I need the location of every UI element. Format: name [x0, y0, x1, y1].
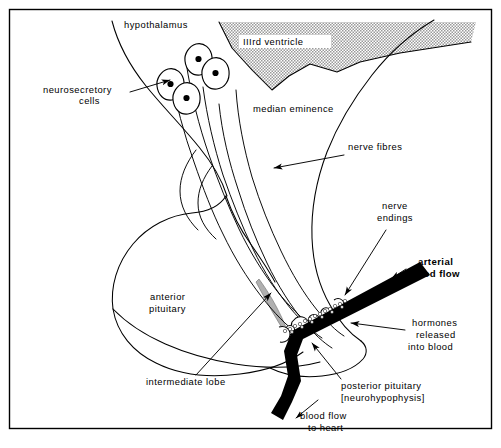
figure-container: hypothalamus neurosecretory cells IIIrd … [0, 0, 501, 448]
label-nerve-fibres: nerve fibres [348, 141, 402, 152]
label-blood-flow-heart-line2: to heart [308, 422, 343, 433]
label-blood-flow-heart-line1: blood flow [300, 410, 347, 421]
neurosecretory-cell [173, 83, 200, 114]
label-arterial-blood-flow-line2: blood flow [408, 268, 460, 279]
label-nerve-endings-line1: nerve [382, 200, 408, 211]
label-anterior-pituitary-line2: pituitary [149, 303, 186, 314]
label-arterial-blood-flow-line1: arterial [418, 256, 453, 267]
label-hormones-line1: hormones [412, 317, 457, 328]
neurosecretory-cell [202, 58, 229, 89]
label-posterior-pituitary-line1: posterior pituitary [341, 380, 421, 391]
label-neurosecretory-cells-line1: neurosecretory [43, 84, 112, 95]
label-median-eminence: median eminence [253, 103, 334, 114]
label-intermediate-lobe: intermediate lobe [146, 376, 226, 387]
label-anterior-pituitary-line1: anterior [150, 291, 185, 302]
label-hormones-line2: released [416, 329, 456, 340]
label-hypothalamus: hypothalamus [124, 19, 188, 30]
label-neurosecretory-cells-line2: cells [79, 95, 100, 106]
pituitary-diagram: hypothalamus neurosecretory cells IIIrd … [0, 0, 501, 448]
label-third-ventricle: IIIrd ventricle [243, 36, 303, 47]
label-posterior-pituitary-line2: [neurohypophysis] [341, 392, 425, 403]
label-nerve-endings-line2: endings [377, 212, 413, 223]
label-hormones-line3: into blood [408, 341, 453, 352]
